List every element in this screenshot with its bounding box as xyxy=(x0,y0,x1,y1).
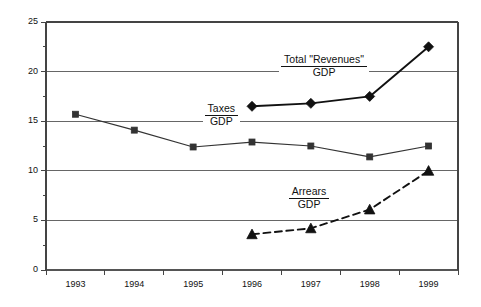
x-axis-tick-label: 1993 xyxy=(53,279,97,289)
taxes-label-numerator: Taxes xyxy=(205,103,238,114)
data-point-square xyxy=(131,127,137,133)
total-revenues-label: Total "Revenues"GDP xyxy=(279,54,369,78)
y-axis-tick-label: 20 xyxy=(8,66,38,76)
chart-plot-area xyxy=(0,0,481,307)
data-point-diamond xyxy=(247,101,257,111)
data-point-square xyxy=(367,154,373,160)
data-point-square xyxy=(72,111,78,117)
y-axis-tick-label: 15 xyxy=(8,115,38,125)
series-taxes-gdp xyxy=(72,111,431,160)
chart-container: 05101520251993199419951996199719981999Ta… xyxy=(0,0,481,307)
y-axis-tick-label: 5 xyxy=(8,214,38,224)
arrears-label-denominator: GDP xyxy=(289,199,329,210)
series-line xyxy=(252,171,429,234)
y-axis-tick-label: 0 xyxy=(8,264,38,274)
x-axis-tick-label: 1998 xyxy=(348,279,392,289)
data-point-diamond xyxy=(306,98,316,108)
data-point-square xyxy=(249,139,255,145)
taxes-label-denominator: GDP xyxy=(205,116,238,127)
total-revenues-label-numerator: Total "Revenues" xyxy=(281,54,367,65)
x-axis-tick-label: 1997 xyxy=(289,279,333,289)
taxes-label: TaxesGDP xyxy=(203,103,240,127)
y-axis-tick-label: 25 xyxy=(8,16,38,26)
arrears-label-numerator: Arrears xyxy=(289,186,329,197)
x-axis-tick-label: 1999 xyxy=(407,279,451,289)
data-point-square xyxy=(308,143,314,149)
arrears-label: ArrearsGDP xyxy=(287,186,331,210)
series-arrears-gdp xyxy=(247,166,434,239)
data-point-square xyxy=(426,143,432,149)
total-revenues-label-denominator: GDP xyxy=(281,67,367,78)
x-axis-tick-label: 1996 xyxy=(230,279,274,289)
x-axis-tick-label: 1994 xyxy=(112,279,156,289)
data-point-square xyxy=(190,144,196,150)
series-line xyxy=(75,114,428,157)
y-axis-tick-label: 10 xyxy=(8,165,38,175)
x-axis-tick-label: 1995 xyxy=(171,279,215,289)
data-point-triangle xyxy=(365,204,375,214)
